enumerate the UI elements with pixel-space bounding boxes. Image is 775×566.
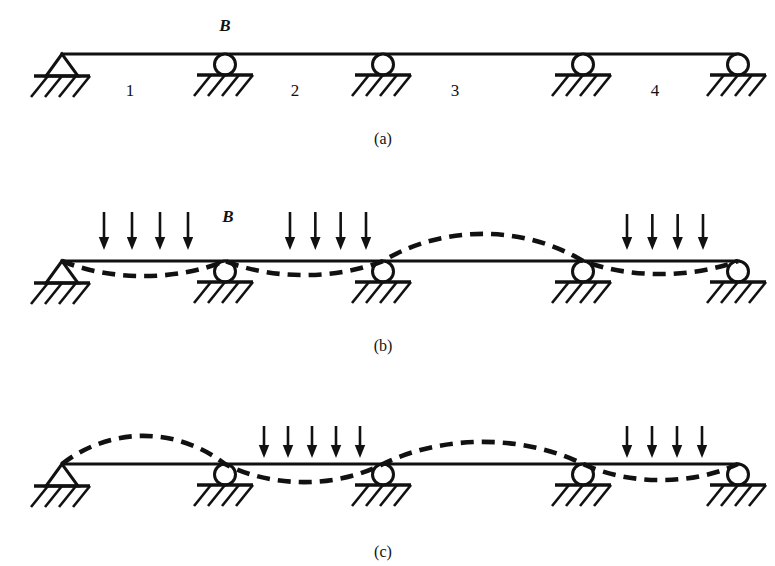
hatch-line — [380, 485, 397, 506]
hatch-line — [380, 75, 397, 96]
hatch-line — [352, 75, 369, 96]
arrow-head — [622, 237, 632, 250]
load-arrow — [331, 426, 341, 458]
hatch-line — [366, 282, 383, 303]
hatch-line — [707, 75, 724, 96]
hatch-line — [580, 75, 597, 96]
load-arrow — [183, 212, 193, 250]
hatch-line — [380, 282, 397, 303]
load-arrow — [99, 212, 109, 250]
panel-caption-a: (a) — [374, 130, 392, 148]
span-label-1: 1 — [126, 81, 135, 100]
load-arrow — [259, 426, 269, 458]
load-arrow-group-span-4 — [622, 426, 707, 458]
roller-circle — [728, 54, 749, 75]
hatch-line — [594, 282, 611, 303]
hatch-line — [749, 75, 766, 96]
point-label-B: B — [221, 207, 233, 226]
hatch-line — [73, 486, 90, 507]
load-arrow — [622, 214, 632, 250]
hatch-line — [721, 485, 738, 506]
load-arrow — [155, 212, 165, 250]
roller-circle — [215, 464, 236, 485]
arrow-head — [283, 445, 293, 458]
arrow-head — [307, 445, 317, 458]
load-arrow — [307, 426, 317, 458]
load-arrow — [697, 426, 707, 458]
arrow-head — [672, 445, 682, 458]
roller-support — [552, 464, 611, 506]
hatch-line — [59, 486, 76, 507]
arrow-head — [698, 237, 708, 250]
roller-circle — [373, 464, 394, 485]
hatch-line — [73, 283, 90, 304]
roller-circle — [373, 54, 394, 75]
load-arrow — [335, 212, 345, 250]
hatch-line — [59, 76, 76, 97]
hatch-line — [707, 282, 724, 303]
arrow-head — [285, 237, 295, 250]
point-label-B: B — [218, 16, 230, 35]
arrow-head — [183, 237, 193, 250]
beam-diagram-figure: B1234(a)B(b)(c) — [0, 0, 775, 566]
hatch-line — [580, 282, 597, 303]
load-arrow — [672, 214, 682, 250]
load-arrow-group-span-1 — [99, 212, 193, 250]
hatch-line — [394, 75, 411, 96]
load-arrow — [283, 426, 293, 458]
span-label-3: 3 — [451, 81, 460, 100]
arrow-head — [99, 237, 109, 250]
hatch-line — [594, 485, 611, 506]
hatch-line — [552, 485, 569, 506]
load-arrow-group-span-2 — [285, 212, 371, 250]
hatch-line — [566, 75, 583, 96]
hatch-line — [73, 76, 90, 97]
hatch-line — [566, 485, 583, 506]
hatch-line — [552, 75, 569, 96]
hatch-line — [721, 282, 738, 303]
arrow-head — [647, 445, 657, 458]
arrow-head — [331, 445, 341, 458]
hatch-line — [735, 485, 752, 506]
load-arrow — [698, 214, 708, 250]
hatch-line — [580, 485, 597, 506]
hatch-line — [31, 283, 48, 304]
hatch-line — [208, 75, 225, 96]
hatch-line — [594, 75, 611, 96]
arrow-head — [259, 445, 269, 458]
hatch-line — [236, 282, 253, 303]
arrow-head — [622, 445, 632, 458]
pin-support — [31, 54, 90, 97]
hatch-line — [194, 485, 211, 506]
roller-circle — [215, 54, 236, 75]
hatch-line — [236, 75, 253, 96]
pin-triangle — [46, 54, 78, 76]
load-arrow — [361, 212, 371, 250]
arrow-head — [647, 237, 657, 250]
panel-c — [31, 426, 766, 507]
hatch-line — [352, 282, 369, 303]
hatch-line — [394, 485, 411, 506]
deflection-curve — [62, 436, 738, 482]
span-label-2: 2 — [291, 81, 300, 100]
hatch-line — [552, 282, 569, 303]
load-arrow — [355, 426, 365, 458]
hatch-line — [707, 485, 724, 506]
pin-support — [31, 261, 90, 304]
load-arrow — [647, 214, 657, 250]
hatch-line — [222, 485, 239, 506]
roller-support — [194, 261, 253, 303]
hatch-line — [31, 486, 48, 507]
hatch-line — [394, 282, 411, 303]
hatch-line — [366, 485, 383, 506]
pin-triangle — [46, 464, 78, 486]
hatch-line — [208, 485, 225, 506]
arrow-head — [355, 445, 365, 458]
arrow-head — [672, 237, 682, 250]
load-arrow — [285, 212, 295, 250]
roller-support — [194, 54, 253, 96]
roller-support — [552, 54, 611, 96]
hatch-line — [45, 486, 62, 507]
hatch-line — [352, 485, 369, 506]
roller-circle — [573, 261, 594, 282]
